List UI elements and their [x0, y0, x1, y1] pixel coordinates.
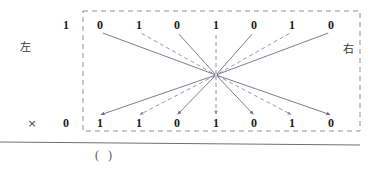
edge-out-1 — [140, 75, 215, 114]
edge-in-5 — [217, 33, 290, 74]
edge-out-0 — [101, 75, 215, 114]
bottom-bit-3: 1 — [209, 116, 223, 130]
edge-in-0 — [103, 33, 215, 75]
top-bit-6: 0 — [324, 18, 338, 32]
incoming-edges — [103, 33, 328, 75]
top-bit-0: 0 — [93, 18, 107, 32]
edge-out-6 — [217, 75, 330, 114]
diagram-canvas — [0, 0, 371, 170]
figure-page: 1 左 × 0 右 0101010 1101010 ( ) — [0, 0, 371, 170]
baseline-rule — [0, 142, 360, 145]
edge-out-5 — [217, 75, 291, 114]
bottom-bit-5: 1 — [285, 116, 299, 130]
edge-in-6 — [217, 33, 328, 75]
top-bit-4: 0 — [247, 18, 261, 32]
top-bit-1: 1 — [132, 18, 146, 32]
top-axis-value: 1 — [63, 18, 69, 33]
top-bit-2: 0 — [170, 18, 184, 32]
bottom-bit-0: 1 — [93, 116, 107, 130]
bottom-bit-6: 0 — [324, 116, 338, 130]
edge-in-1 — [142, 33, 216, 74]
left-side-label: 左 — [20, 38, 31, 54]
bottom-bit-4: 0 — [247, 116, 261, 130]
multiply-symbol: × — [27, 117, 36, 130]
bottom-bit-1: 1 — [132, 116, 146, 130]
bottom-bit-2: 0 — [170, 116, 184, 130]
outgoing-edges — [101, 75, 330, 114]
top-bit-3: 1 — [209, 18, 223, 32]
bottom-axis-value: 0 — [63, 116, 69, 131]
top-bit-5: 1 — [285, 18, 299, 32]
figure-caption: ( ) — [95, 148, 115, 163]
right-side-label: 右 — [343, 40, 354, 56]
